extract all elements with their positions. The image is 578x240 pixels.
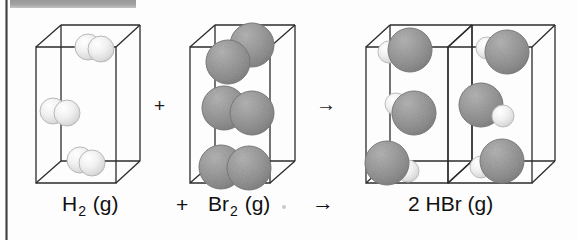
reaction-caption: H2 (g) + Br2 (g) → 2 HBr (g)	[0, 193, 578, 225]
caption-h2-state: (g)	[93, 192, 119, 215]
caption-plus-operator: +	[176, 194, 188, 215]
caption-br2-state: (g)	[245, 192, 271, 215]
caption-br2-subscript: 2	[229, 203, 239, 219]
caption-h2-formula: H	[62, 192, 77, 215]
figure-canvas: + → H2 (g) + Br2 (g) → 2 HBr (g)	[0, 0, 578, 240]
hbr-container-left	[365, 25, 472, 185]
hbr-molecule	[378, 28, 432, 72]
hbr-molecule	[476, 30, 529, 74]
hbr-molecule	[459, 83, 514, 127]
figure-arrow-operator: →	[316, 94, 336, 114]
br2-container	[190, 23, 295, 190]
figure-plus-operator: +	[154, 96, 165, 115]
hbr-molecule	[385, 91, 436, 135]
caption-hbr-coefficient: 2	[408, 192, 420, 215]
hbr-molecule	[470, 139, 524, 183]
h2-container	[36, 25, 140, 183]
br2-molecule	[206, 23, 274, 84]
h2-molecule	[40, 98, 80, 126]
h2-molecule	[75, 34, 114, 62]
caption-arrow-operator: →	[312, 192, 334, 214]
caption-br2-formula: Br	[208, 192, 229, 215]
h2-molecule	[67, 147, 105, 176]
caption-hbr-formula: HBr	[426, 192, 462, 215]
hbr-molecule	[365, 141, 419, 185]
caption-br2: Br2 (g)	[208, 193, 270, 214]
hbr-container-right	[448, 25, 555, 183]
caption-h2-subscript: 2	[77, 203, 87, 219]
caption-hbr-state: (g)	[468, 192, 494, 215]
caption-hbr: 2 HBr (g)	[408, 193, 493, 214]
br2-molecule	[199, 145, 271, 190]
caption-h2: H2 (g)	[62, 193, 118, 214]
br2-molecule	[202, 86, 274, 135]
